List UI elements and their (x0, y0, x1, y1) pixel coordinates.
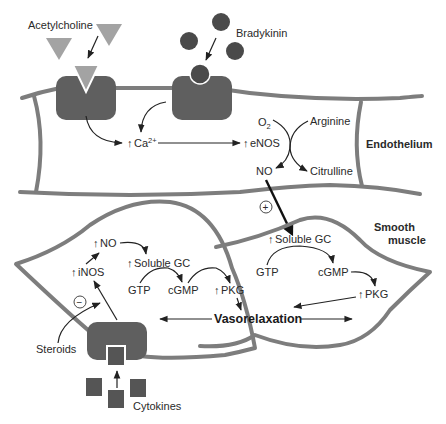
right-gtp-to-cgmp-arrow (267, 246, 333, 265)
bradykinin-receptor (172, 64, 232, 120)
right-gtp-label: GTP (256, 266, 279, 278)
bradykinin-molecule (212, 13, 230, 31)
endothelium-bottom-membrane (20, 185, 420, 195)
bradykinin-molecule (180, 32, 198, 50)
endothelium-label: Endothelium (366, 138, 433, 150)
left-pkg-label: PKG (221, 284, 244, 296)
acetylcholine-binding-arrow (88, 36, 98, 58)
left-soluble-gc-label: Soluble GC (134, 257, 190, 269)
enos-label: eNOS (250, 137, 280, 149)
right-pkg-label: PKG (365, 288, 388, 300)
left-no-up-arrow: ↑ (93, 237, 99, 249)
plus-label: + (263, 202, 269, 213)
bradykinin-label: Bradykinin (236, 27, 287, 39)
inos-up-arrow: ↑ (71, 266, 77, 278)
right-pkg-up-arrow: ↑ (358, 288, 364, 300)
minus-label: − (77, 297, 83, 308)
acetylcholine-receptor (56, 65, 116, 120)
acetylcholine-label: Acetylcholine (28, 19, 93, 31)
left-cgmp-to-pkg-arrow (188, 268, 230, 283)
smooth-muscle-label-line2: muscle (388, 234, 426, 246)
cytokine-receptor (87, 322, 147, 366)
enos-up-arrow: ↑ (243, 137, 249, 149)
right-pkg-to-relaxation-arrow (294, 297, 356, 307)
right-gc-up-arrow: ↑ (268, 233, 274, 245)
vasorelaxation-label: Vasorelaxation (214, 312, 302, 326)
left-cgmp-label: cGMP (168, 284, 199, 296)
ach-to-ca-arrow (86, 116, 122, 143)
smooth-muscle-cells (16, 201, 430, 357)
cytokine-to-inos-arrow (94, 281, 117, 320)
endothelium-left-wall (34, 96, 41, 192)
left-pkg-up-arrow: ↑ (214, 284, 220, 296)
right-soluble-gc-label: Soluble GC (275, 233, 331, 245)
ca-up-arrow: ↑ (127, 137, 133, 149)
left-no-to-gc-arrow (120, 242, 146, 254)
right-cgmp-label: cGMP (318, 266, 349, 278)
left-no-label: NO (100, 237, 117, 249)
left-pkg-to-relaxation-arrow (237, 298, 241, 310)
calcium-label: Ca2+ (134, 136, 157, 149)
acetylcholine-molecule (96, 24, 122, 46)
cytokines-label: Cytokines (133, 400, 182, 412)
arginine-label: Arginine (310, 115, 350, 127)
cytokine-bound (107, 346, 125, 366)
arginine-to-citrulline-arrow (290, 121, 308, 171)
bradykinin-binding-arrow (206, 38, 216, 60)
brady-to-ca-arrow (141, 102, 166, 132)
acetylcholine-molecule (46, 38, 72, 60)
inos-to-no-arrow (86, 253, 99, 264)
cytokine-molecule (108, 390, 124, 408)
endothelium-no-label: NO (256, 165, 273, 177)
bradykinin-molecule (226, 42, 244, 60)
cytokine-molecule (86, 378, 102, 396)
steroids-label: Steroids (36, 343, 77, 355)
endothelium-right-wall (357, 102, 362, 186)
left-gtp-to-cgmp-arrow (140, 268, 182, 283)
left-gc-up-arrow: ↑ (127, 257, 133, 269)
inos-label: iNOS (78, 266, 104, 278)
cytokine-molecule (130, 379, 146, 397)
bradykinin-bound (190, 64, 210, 84)
right-cgmp-to-pkg-arrow (351, 272, 375, 286)
no-vasorelaxation-diagram: Acetylcholine Bradykinin ↑ Ca2+ ↑ eNOS O… (0, 0, 446, 424)
smooth-muscle-label-line1: Smooth (374, 221, 415, 233)
citrulline-label: Citrulline (310, 165, 353, 177)
o2-label: O2 (258, 116, 271, 131)
left-gtp-label: GTP (128, 284, 151, 296)
